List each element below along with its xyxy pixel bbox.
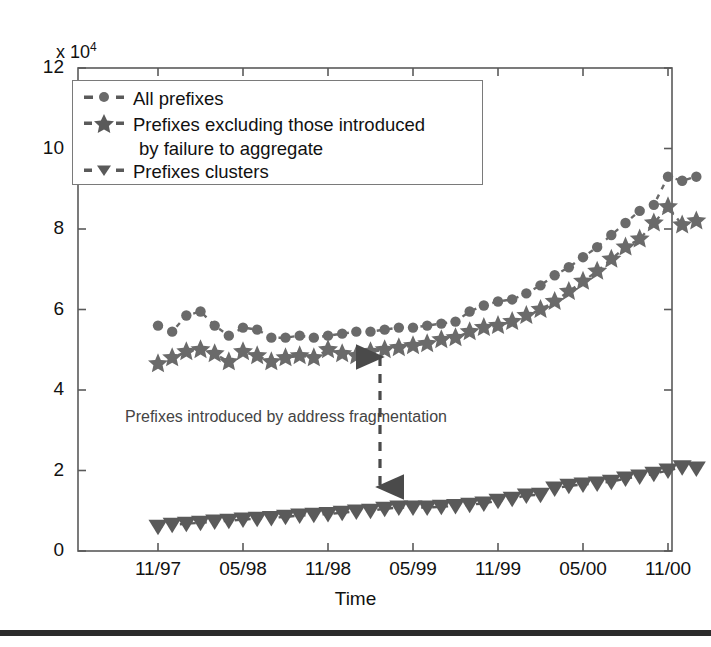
data-point [687, 461, 706, 477]
data-point [535, 280, 545, 290]
data-point [191, 339, 211, 358]
data-point [644, 212, 664, 231]
data-point [601, 249, 621, 268]
data-point [507, 294, 517, 304]
data-point [564, 262, 574, 272]
data-point [464, 306, 474, 316]
data-point [602, 475, 621, 491]
figure-chart: x 104 12 10 8 6 4 2 0 11/97 05/98 11/98 … [0, 0, 711, 647]
series-triangle-down [149, 460, 706, 535]
legend-label-prefixes-excluding-line2: by failure to aggregate [139, 138, 323, 160]
legend-item-prefixes-excluding[interactable]: Prefixes excluding those introduced [83, 113, 425, 136]
data-point [588, 476, 607, 492]
data-point [446, 499, 465, 514]
data-point [559, 281, 579, 300]
data-point [209, 320, 219, 330]
data-point [252, 324, 262, 334]
data-point [389, 337, 409, 356]
data-point [474, 317, 494, 336]
data-point [677, 176, 687, 186]
data-point [247, 345, 267, 364]
data-point [219, 514, 238, 530]
legend-item-all-prefixes[interactable]: All prefixes [83, 87, 223, 110]
data-point [233, 341, 253, 360]
data-point [686, 210, 706, 229]
data-point [663, 171, 673, 181]
data-point [181, 310, 191, 320]
data-point [549, 270, 559, 280]
data-point [319, 507, 338, 522]
data-point [403, 335, 423, 354]
data-point [620, 218, 630, 228]
data-point [195, 306, 205, 316]
data-point [304, 347, 324, 366]
data-point [531, 299, 551, 318]
data-point [630, 470, 649, 486]
data-point [294, 330, 304, 340]
data-point [176, 341, 196, 360]
data-point [238, 322, 248, 332]
data-series-layer [148, 171, 706, 535]
data-point [634, 206, 644, 216]
data-point [365, 326, 375, 336]
data-point [436, 318, 446, 328]
data-point [592, 242, 602, 252]
data-point [167, 326, 177, 336]
data-point [337, 328, 347, 338]
legend-item-prefixes-clusters[interactable]: Prefixes clusters [83, 160, 269, 183]
data-point [361, 341, 381, 360]
data-point [649, 200, 659, 210]
legend-label-prefixes-excluding: Prefixes excluding those introduced [129, 114, 425, 136]
data-point [521, 288, 531, 298]
chart-legend: All prefixes Prefixes excluding those in… [72, 80, 483, 185]
data-point [262, 511, 281, 527]
data-point [375, 339, 395, 358]
data-point [573, 271, 593, 290]
data-point [672, 214, 692, 233]
legend-label-all-prefixes: All prefixes [129, 88, 223, 110]
data-point [361, 504, 380, 520]
data-point [488, 315, 508, 334]
data-point [266, 332, 276, 342]
data-point [379, 324, 389, 334]
data-point [422, 320, 432, 330]
data-point [606, 230, 616, 240]
data-point [394, 322, 404, 332]
data-point [450, 316, 460, 326]
data-point [460, 321, 480, 340]
data-point [493, 296, 503, 306]
data-point [691, 171, 701, 181]
data-point [219, 351, 239, 370]
data-point [276, 347, 296, 366]
data-point [309, 332, 319, 342]
data-point [417, 333, 437, 352]
data-point [503, 492, 522, 508]
data-point [351, 326, 361, 336]
data-point [346, 345, 366, 364]
annotation-label: Prefixes introduced by address fragmenta… [125, 408, 447, 426]
data-point [163, 518, 182, 534]
data-point [460, 498, 479, 514]
data-point [578, 252, 588, 262]
data-point [431, 329, 451, 348]
data-point [149, 520, 168, 536]
bottom-divider [0, 630, 711, 636]
data-point [153, 320, 163, 330]
data-point [644, 467, 663, 483]
legend-label-prefixes-clusters: Prefixes clusters [129, 161, 269, 183]
data-point [224, 330, 234, 340]
data-point [280, 332, 290, 342]
data-point [479, 300, 489, 310]
data-point [658, 196, 678, 215]
data-point [408, 322, 418, 332]
